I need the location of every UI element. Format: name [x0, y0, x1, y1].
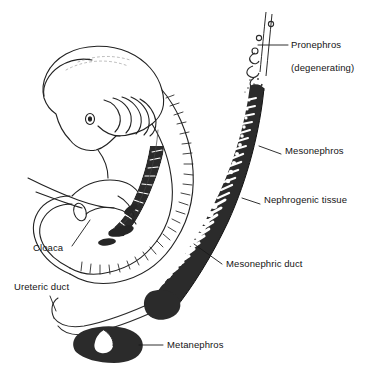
label-pronephros-line1: Pronephros: [291, 39, 341, 50]
label-mesonephric-duct: Mesonephric duct: [226, 258, 303, 270]
pronephric-duct-line-a: [260, 12, 266, 72]
tail-inner-fold: [40, 204, 72, 268]
pronephros-tubule-1: [250, 53, 259, 64]
label-ureteric-duct: Ureteric duct: [14, 281, 69, 293]
ureteric-duct-line-upper: [54, 300, 158, 327]
maxillary-process: [98, 126, 120, 136]
label-pronephros: Pronephros (degenerating): [291, 27, 354, 73]
leader-cloaca: [72, 220, 90, 246]
enlarged-nephric-system: [52, 12, 274, 363]
pronephros-vesicle-2: [256, 35, 261, 40]
leader-nephrogenic-tissue: [242, 198, 260, 204]
kidney-development-figure: Pronephros (degenerating) Mesonephros Ne…: [0, 0, 379, 373]
heart-bulge: [72, 180, 138, 196]
embryo-head-outline: [43, 46, 164, 150]
label-pronephros-line2: (degenerating): [291, 62, 354, 73]
leader-mesonephros: [259, 146, 281, 154]
label-nephrogenic-tissue: Nephrogenic tissue: [264, 194, 347, 206]
forebrain-lobe: [44, 59, 92, 96]
pronephros-region: [247, 12, 274, 91]
leader-ureteric-duct: [50, 296, 56, 311]
optic-vesicle-inner: [88, 117, 91, 121]
label-cloaca: Cloaca: [33, 242, 63, 254]
pronephros-tubule-2: [247, 66, 259, 77]
tail-outer-fold: [34, 196, 71, 274]
somite-marks: [81, 95, 193, 274]
pharyngeal-arches: [104, 97, 156, 136]
head-surface-texture: [66, 56, 130, 70]
label-mesonephros: Mesonephros: [285, 145, 344, 157]
label-metanephros: Metanephros: [167, 339, 224, 351]
cloaca-vesicle: [72, 202, 89, 223]
limb-bud-upper: [98, 150, 108, 178]
